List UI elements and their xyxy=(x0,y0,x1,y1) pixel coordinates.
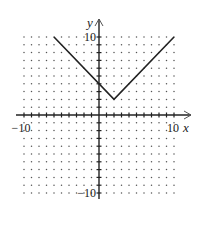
grid-dot xyxy=(173,138,175,140)
grid-dot xyxy=(113,184,115,186)
grid-dot xyxy=(128,106,130,108)
grid-dot xyxy=(151,122,153,124)
grid-dot xyxy=(106,192,108,194)
grid-dot xyxy=(91,60,93,62)
grid-dot xyxy=(143,106,145,108)
grid-dot xyxy=(23,44,25,46)
grid-dot xyxy=(31,106,33,108)
grid-dot xyxy=(31,67,33,69)
grid-dot xyxy=(61,145,63,147)
grid-dot xyxy=(106,161,108,163)
grid-dot xyxy=(38,153,40,155)
grid-dot xyxy=(91,99,93,101)
grid-dot xyxy=(113,106,115,108)
grid-dot xyxy=(173,75,175,77)
grid-dot xyxy=(136,99,138,101)
grid-dot xyxy=(151,44,153,46)
grid-dot xyxy=(158,153,160,155)
grid-dot xyxy=(128,161,130,163)
grid-dot xyxy=(68,130,70,132)
grid-dot xyxy=(113,145,115,147)
grid-dot xyxy=(128,153,130,155)
grid-dot xyxy=(166,184,168,186)
grid-dot xyxy=(46,169,48,171)
grid-dot xyxy=(158,83,160,85)
grid-dot xyxy=(68,169,70,171)
grid-dot xyxy=(166,36,168,38)
grid-dot xyxy=(38,83,40,85)
grid-dot xyxy=(23,184,25,186)
grid-dot xyxy=(106,99,108,101)
grid-dot xyxy=(121,60,123,62)
grid-dot xyxy=(136,153,138,155)
grid-dot xyxy=(113,122,115,124)
grid-dot xyxy=(128,60,130,62)
grid-dot xyxy=(106,67,108,69)
grid-dot xyxy=(83,138,85,140)
grid-dot xyxy=(128,52,130,54)
grid-dot xyxy=(46,153,48,155)
grid-dot xyxy=(173,153,175,155)
grid-dot xyxy=(128,177,130,179)
grid-dot xyxy=(173,106,175,108)
grid-dot xyxy=(31,99,33,101)
grid-dot xyxy=(158,44,160,46)
grid-dot xyxy=(83,122,85,124)
grid-dot xyxy=(158,106,160,108)
grid-dot xyxy=(23,60,25,62)
grid-dot xyxy=(121,145,123,147)
grid-dot xyxy=(128,75,130,77)
x-axis-label: x xyxy=(182,120,189,135)
grid-dot xyxy=(158,145,160,147)
grid-dot xyxy=(61,169,63,171)
grid-dot xyxy=(76,75,78,77)
grid-dot xyxy=(158,177,160,179)
grid-dot xyxy=(166,145,168,147)
grid-dot xyxy=(113,161,115,163)
grid-dot xyxy=(76,138,78,140)
grid-dot xyxy=(113,130,115,132)
grid-dot xyxy=(61,153,63,155)
grid-dot xyxy=(166,161,168,163)
grid-dot xyxy=(106,52,108,54)
grid-dot xyxy=(83,60,85,62)
grid-dot xyxy=(31,145,33,147)
grid-dot xyxy=(143,161,145,163)
grid-dot xyxy=(106,44,108,46)
grid-dot xyxy=(151,36,153,38)
grid-dot xyxy=(53,161,55,163)
grid-dot xyxy=(61,36,63,38)
grid-dot xyxy=(46,138,48,140)
grid-dot xyxy=(83,130,85,132)
grid-dot xyxy=(46,192,48,194)
grid-dot xyxy=(23,75,25,77)
grid-dot xyxy=(61,83,63,85)
grid-dot xyxy=(31,44,33,46)
grid-dot xyxy=(76,122,78,124)
grid-dot xyxy=(53,75,55,77)
grid-dot xyxy=(61,161,63,163)
grid-dot xyxy=(143,145,145,147)
grid-dot xyxy=(46,177,48,179)
grid-dot xyxy=(53,145,55,147)
grid-dot xyxy=(61,177,63,179)
grid-dot xyxy=(128,192,130,194)
grid-dot xyxy=(166,52,168,54)
grid-dot xyxy=(121,161,123,163)
grid-dot xyxy=(76,67,78,69)
grid-dot xyxy=(113,36,115,38)
grid-dot xyxy=(106,75,108,77)
grid-dot xyxy=(106,153,108,155)
grid-dot xyxy=(53,52,55,54)
grid-dot xyxy=(143,122,145,124)
grid-dot xyxy=(31,36,33,38)
grid-dot xyxy=(151,52,153,54)
grid-dot xyxy=(166,99,168,101)
grid-dot xyxy=(136,192,138,194)
grid-dot xyxy=(46,75,48,77)
grid-dot xyxy=(83,145,85,147)
grid-dot xyxy=(38,122,40,124)
grid-dot xyxy=(136,60,138,62)
grid-dot xyxy=(151,161,153,163)
grid-dot xyxy=(38,44,40,46)
